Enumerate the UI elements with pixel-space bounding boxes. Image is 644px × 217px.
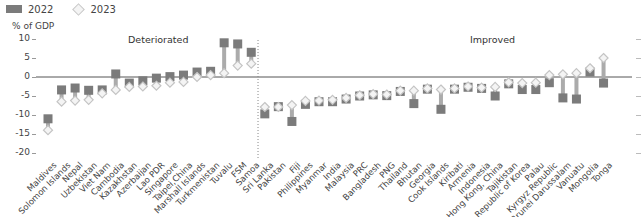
- marker-2023: [247, 59, 256, 68]
- marker-2023: [409, 86, 418, 95]
- marker-2022: [220, 38, 229, 47]
- marker-2022: [111, 69, 120, 78]
- marker-2022: [287, 117, 296, 126]
- marker-2023: [572, 69, 581, 78]
- marker-2022: [491, 92, 500, 101]
- marker-2023: [71, 96, 80, 105]
- marker-2022: [71, 84, 80, 93]
- marker-2023: [44, 126, 53, 135]
- region-label-improved: Improved: [470, 34, 515, 45]
- marker-2023: [111, 85, 120, 94]
- marker-2023: [436, 85, 445, 94]
- marker-2022: [436, 105, 445, 114]
- marker-2023: [491, 82, 500, 91]
- marker-2023: [57, 97, 66, 106]
- marker-2022: [599, 79, 608, 88]
- marker-2022: [57, 85, 66, 94]
- marker-2022: [233, 39, 242, 48]
- marker-2022: [44, 114, 53, 123]
- marker-2023: [84, 95, 93, 104]
- marker-2022: [409, 99, 418, 108]
- region-label-deteriorated: Deteriorated: [128, 34, 188, 45]
- marker-2023: [233, 61, 242, 70]
- marker-2023: [599, 54, 608, 63]
- marker-2022: [558, 93, 567, 102]
- marker-2023: [220, 69, 229, 78]
- marker-2022: [84, 86, 93, 95]
- marker-2022: [572, 95, 581, 104]
- marker-2022: [247, 48, 256, 57]
- marker-2023: [287, 101, 296, 110]
